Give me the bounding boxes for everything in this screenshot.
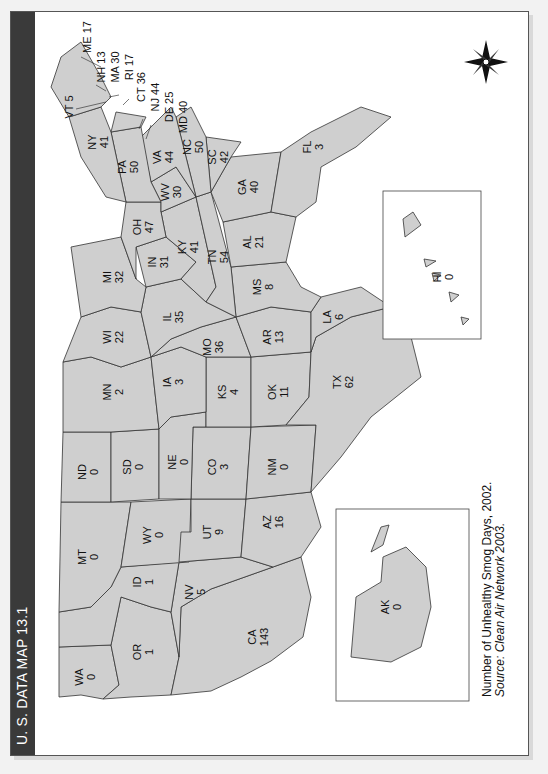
callout-nj: NJ 44 (149, 83, 161, 112)
label-pa: PA50 (116, 159, 140, 174)
label-ok: OK11 (266, 383, 290, 400)
map-stage: U. S. DATA MAP 13.1 (11, 12, 529, 756)
state-wa[interactable] (59, 645, 119, 699)
label-ar: AR13 (261, 329, 285, 344)
label-wi: WI22 (101, 330, 125, 343)
callout-md: MD 40 (177, 101, 189, 133)
map-page: U. S. DATA MAP 13.1 (10, 11, 529, 756)
label-ca: CA143 (246, 628, 270, 646)
callout-ma: MA 30 (109, 51, 121, 82)
us-map: WA0 OR1 CA143 ID1 NV5 MT0 WY0 UT9 AZ16 C… (11, 12, 529, 756)
label-sc: SC42 (206, 149, 230, 164)
label-nc: NC50 (181, 139, 205, 155)
callout-de: DE 25 (163, 92, 175, 123)
callout-ct: CT 36 (135, 72, 147, 102)
label-az: AZ16 (261, 515, 285, 529)
callout-ri: RI 17 (123, 54, 135, 80)
label-oh: OH47 (131, 219, 155, 236)
label-al: AL21 (241, 235, 265, 248)
label-tx: TX62 (331, 374, 355, 389)
compass-rose-icon (464, 40, 508, 84)
label-wv: WV30 (159, 182, 183, 200)
label-il: IL35 (161, 311, 185, 323)
hawaii-inset (383, 191, 481, 339)
callout-me: ME 17 (81, 21, 93, 53)
state-az[interactable] (241, 492, 321, 567)
state-fl[interactable] (271, 107, 391, 217)
label-va: VA44 (151, 149, 175, 164)
label-mi: MI32 (101, 271, 125, 283)
label-tn: TN54 (206, 250, 230, 265)
callout-nh: NH 13 (95, 51, 107, 82)
label-ga: GA40 (236, 178, 260, 195)
state-nm[interactable] (246, 425, 316, 499)
label-ny: NY41 (86, 134, 110, 150)
caption-source: Source: Clean Air Network 2003. (494, 482, 507, 697)
label-in: IN31 (146, 256, 170, 268)
callout-vt: VT 5 (63, 95, 75, 118)
map-caption: Number of Unhealthy Smog Days, 2002. Sou… (481, 482, 507, 697)
label-ky: KY41 (176, 239, 200, 254)
